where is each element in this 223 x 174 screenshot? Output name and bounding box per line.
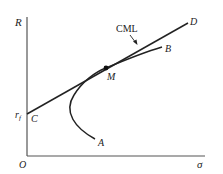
x-axis-label: σ <box>197 158 203 170</box>
efficient-frontier-curve <box>70 47 162 139</box>
point-c-label: C <box>31 113 38 124</box>
cml-diagram: R O σ rf C M A B D CML <box>0 0 223 174</box>
tangency-point-m <box>104 66 109 71</box>
point-m-label: M <box>106 71 116 82</box>
point-a-label: A <box>97 137 105 148</box>
cml-label: CML <box>116 23 138 34</box>
risk-free-label: rf <box>15 109 22 122</box>
point-b-label: B <box>165 43 171 54</box>
origin-label: O <box>19 159 26 170</box>
y-axis-label: R <box>14 16 22 28</box>
point-d-label: D <box>189 16 198 27</box>
